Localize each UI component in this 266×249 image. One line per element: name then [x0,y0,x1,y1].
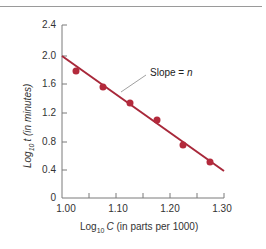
svg-text:1.00: 1.00 [56,203,76,214]
x-tick-labels: 1.00 1.10 1.20 1.30 [56,203,232,214]
data-point [100,84,107,91]
data-point [73,68,80,75]
fit-line [62,56,224,171]
x-axis-title: Log10C (in parts per 1000) [80,221,198,234]
data-point [154,117,161,124]
svg-text:0.8: 0.8 [42,136,56,147]
svg-text:0.4: 0.4 [42,164,56,175]
svg-text:2.4: 2.4 [42,19,56,30]
annotation-leader [121,75,146,92]
slope-annotation: Slope = n [150,67,193,78]
svg-text:2.0: 2.0 [42,50,56,61]
svg-text:1.2: 1.2 [42,107,56,118]
x-ticks [89,193,224,198]
svg-text:0: 0 [50,192,56,203]
data-point [127,100,134,107]
y-axis-title: Log10t (in minutes) [22,84,35,168]
chart: 0 0.4 0.8 1.2 1.6 2.0 2.4 1.00 1.10 1.20… [0,0,266,249]
data-point [207,159,214,166]
data-points [73,68,214,166]
svg-text:1.6: 1.6 [42,78,56,89]
y-ticks [62,56,67,170]
svg-text:1.20: 1.20 [160,203,180,214]
svg-text:1.10: 1.10 [108,203,128,214]
svg-text:1.30: 1.30 [212,203,232,214]
y-tick-labels: 0 0.4 0.8 1.2 1.6 2.0 2.4 [42,19,56,203]
data-point [180,142,187,149]
axes [62,25,224,198]
